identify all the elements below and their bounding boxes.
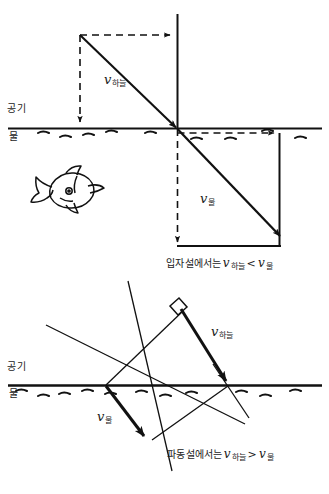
medium-label-air-top: 공기: [7, 104, 26, 114]
top-diagram-group: [8, 14, 322, 246]
relation-operator: >: [247, 448, 259, 461]
water-dashes-top: [38, 130, 306, 140]
medium-label-water-bottom: 물: [9, 389, 19, 399]
caption-particle-theory: 입자설에서는v하늘<v물: [166, 257, 273, 271]
caption-lead: 입자설에서는: [166, 258, 222, 269]
water-dashes-bottom: [16, 390, 301, 397]
caption-lead: 파동설에서는: [167, 449, 223, 460]
incident-vector-label-bottom: v하늘: [211, 325, 233, 340]
refracted-vector-top: [178, 129, 281, 236]
v-subscript-b: 물: [266, 262, 273, 271]
v-subscript: 물: [207, 198, 215, 207]
medium-label-air-bottom: 공기: [7, 362, 26, 372]
refracted-vector-label-bottom: v물: [97, 410, 112, 425]
v-symbol-a: v: [222, 256, 231, 270]
incident-vector-label-top: v하늘: [104, 73, 126, 88]
v-symbol-b: v: [257, 256, 266, 270]
v-subscript-b: 물: [267, 453, 274, 462]
incident-vector-bottom: [181, 309, 226, 381]
v-subscript: 물: [104, 416, 112, 425]
figure-canvas: [0, 0, 329, 494]
medium-label-water-top: 물: [9, 132, 19, 142]
v-subscript: 하늘: [218, 331, 233, 340]
v-subscript-a: 하늘: [232, 453, 247, 462]
v-subscript-a: 하늘: [231, 262, 246, 271]
wavefront-ray-line-left: [128, 281, 172, 471]
v-symbol-a: v: [223, 447, 232, 461]
fish-illustration: [31, 166, 104, 213]
caption-wave-theory: 파동설에서는v하늘>v물: [167, 448, 274, 462]
v-subscript: 하늘: [111, 79, 126, 88]
incident-vector-top: [80, 35, 176, 128]
refracted-vector-label-top: v물: [200, 192, 215, 207]
v-symbol-b: v: [258, 447, 267, 461]
relation-operator: <: [246, 257, 258, 270]
bottom-diagram-group: [8, 281, 322, 471]
refraction-figure: 공기 물 v하늘 v물 입자설에서는v하늘<v물 공기 물 v하늘 v물 파동설…: [0, 0, 329, 494]
